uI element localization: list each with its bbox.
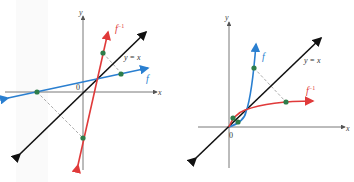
point [100,50,105,55]
right-graph: y x 0 y = x f f−1 [196,13,350,168]
f-label: f [146,73,150,84]
y-axis-label: y [224,13,229,22]
identity-label: y = x [303,56,321,65]
y-axis-label: y [78,8,83,17]
f-curve [229,44,256,127]
identity-line [196,38,321,158]
identity-label: y = x [123,53,141,62]
origin-label: 0 [229,131,233,140]
point [235,119,240,124]
f-inverse-label: f−1 [306,85,315,96]
f-label: f [262,51,266,62]
origin-label: 0 [76,83,80,92]
point [34,89,39,94]
inverse-function-diagram: y x 0 y = x f f−1 y x 0 y = x f f−1 [0,0,354,182]
point [283,99,288,104]
point [118,71,123,76]
left-graph: y x 0 y = x f f−1 [5,8,162,170]
point [230,115,235,120]
point [80,135,85,140]
point [251,65,256,70]
x-axis-label: x [345,124,350,133]
f-inverse-label: f−1 [115,23,124,34]
x-axis-label: x [157,88,162,97]
